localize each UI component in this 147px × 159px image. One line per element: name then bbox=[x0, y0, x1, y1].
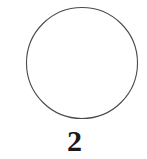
circle-icon bbox=[27, 8, 138, 119]
figure-caption: 2 bbox=[0, 126, 147, 159]
circle-outline-svg bbox=[0, 0, 147, 129]
shape-canvas bbox=[0, 0, 147, 129]
figure-caption-label: 2 bbox=[67, 126, 82, 156]
figure-panel: 2 bbox=[0, 0, 147, 159]
